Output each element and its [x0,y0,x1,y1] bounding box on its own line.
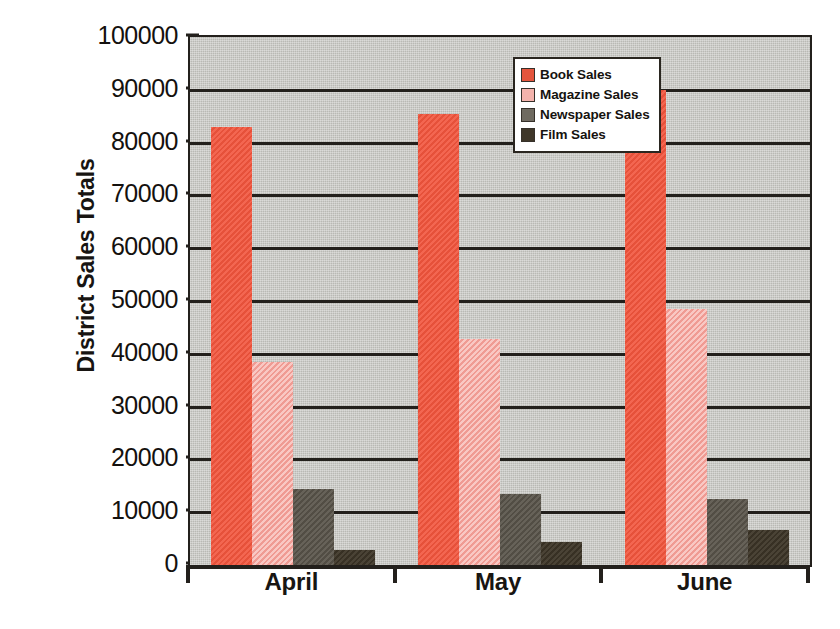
gridline [190,142,810,145]
bar-april-magazine-sales [252,362,293,565]
legend-item-magazine-sales: Magazine Sales [521,85,650,104]
bar-april-newspaper-sales [293,489,334,565]
x-axis-category-label-may: May [475,568,521,596]
legend-item-newspaper-sales: Newspaper Sales [521,105,650,124]
bar-april-book-sales [211,127,252,565]
gridline [190,89,810,92]
bar-june-film-sales [748,530,789,565]
x-axis-tick-mark [806,565,810,583]
x-axis-category-label-april: April [264,568,318,596]
plot-area [188,35,812,567]
gridline [190,353,810,356]
gridline [190,194,810,197]
bar-may-book-sales [418,114,459,565]
legend-swatch-icon [521,128,535,142]
legend-swatch-icon [521,88,535,102]
bar-june-magazine-sales [666,309,707,565]
legend-label: Book Sales [540,67,612,82]
legend-item-film-sales: Film Sales [521,125,650,144]
x-axis-tick-mark [599,565,603,583]
gridline [190,247,810,250]
bar-may-film-sales [541,542,582,565]
legend-label: Film Sales [540,127,606,142]
x-axis-category-label-june: June [677,568,732,596]
x-axis-tick-mark [186,565,190,583]
legend-swatch-icon [521,108,535,122]
chart-legend: Book SalesMagazine SalesNewspaper SalesF… [513,57,661,153]
bar-june-newspaper-sales [707,499,748,565]
bar-chart: District Sales Totals 100000900008000070… [0,0,840,629]
bar-may-magazine-sales [459,339,500,565]
x-axis-tick-mark [393,565,397,583]
legend-item-book-sales: Book Sales [521,65,650,84]
gridline [190,300,810,303]
bar-april-film-sales [334,550,375,565]
bar-may-newspaper-sales [500,494,541,565]
legend-swatch-icon [521,68,535,82]
legend-label: Newspaper Sales [540,107,650,122]
bar-june-book-sales [625,90,666,565]
legend-label: Magazine Sales [540,87,638,102]
y-axis-tick-marks [10,35,210,563]
